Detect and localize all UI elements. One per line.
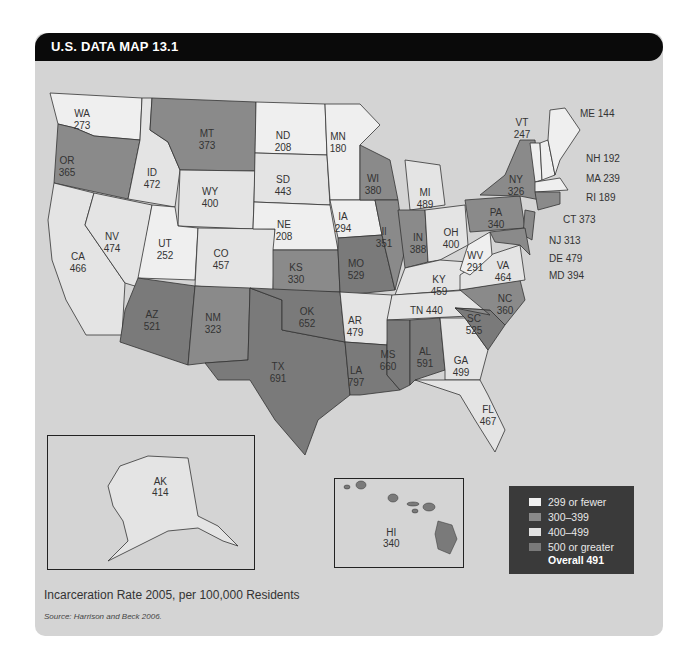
state-label-VA: VA464	[495, 260, 512, 283]
state-CT-RI	[535, 192, 560, 210]
legend-swatch	[529, 498, 541, 506]
state-KS	[273, 250, 340, 292]
state-SD	[254, 153, 330, 205]
state-label-MT: MT373	[199, 128, 216, 151]
state-CO	[195, 228, 275, 292]
legend-item: 300–399	[529, 511, 589, 523]
state-side-label: DE 479	[549, 253, 583, 264]
state-side-label: NH 192	[586, 153, 620, 164]
legend: 299 or fewer 300–399 400–499 500 or grea…	[509, 486, 634, 574]
hawaii-inset: HI 340	[334, 478, 464, 568]
legend-overall: Overall 491	[548, 554, 604, 566]
legend-item: 500 or greater	[529, 541, 614, 553]
map-source: Source: Harrison and Beck 2006.	[44, 612, 162, 621]
state-label-PA: PA340	[488, 207, 505, 230]
map-caption: Incarceration Rate 2005, per 100,000 Res…	[44, 588, 300, 602]
legend-item: 400–499	[529, 526, 589, 538]
alaska-label: AK 414	[152, 476, 169, 498]
legend-swatch	[529, 543, 541, 551]
state-label-SC: SC525	[466, 313, 483, 336]
alaska-shape	[48, 436, 254, 569]
state-label-AZ: AZ521	[144, 309, 161, 332]
state-label-GA: GA499	[453, 355, 470, 378]
legend-swatch	[529, 513, 541, 521]
state-label-KY: KY459	[431, 274, 448, 297]
state-label-OR: OR365	[59, 155, 76, 178]
legend-swatch	[529, 528, 541, 536]
hawaii-shape	[335, 479, 463, 567]
state-ME	[548, 108, 580, 175]
state-label-AR: AR479	[347, 315, 364, 338]
state-label-SD: SD443	[275, 174, 292, 197]
state-side-label: NJ 313	[549, 235, 581, 246]
state-label-WV: WV291	[467, 250, 484, 273]
alaska-inset: AK 414	[47, 435, 255, 570]
state-label-OK: OK652	[299, 306, 316, 329]
state-label-CO: CO457	[213, 248, 230, 271]
state-label-KS: KS330	[288, 262, 305, 285]
state-label-WA: WA273	[74, 108, 91, 131]
state-label-MS: MS660	[380, 349, 397, 372]
state-label-NV: NV474	[104, 231, 121, 254]
state-label-UT: UT252	[157, 238, 174, 261]
state-label-CA: CA466	[70, 251, 87, 274]
state-side-label: MD 394	[549, 270, 584, 281]
state-label-VT: VT247	[514, 117, 531, 140]
state-label-NM: NM323	[205, 312, 222, 335]
legend-item: 299 or fewer	[529, 496, 606, 508]
state-label-WY: WY400	[202, 186, 219, 209]
state-label-TX: TX691	[270, 361, 287, 384]
state-label-OH: OH400	[443, 227, 460, 250]
hawaii-label: HI 340	[383, 527, 400, 549]
state-label-NC: NC360	[497, 293, 514, 316]
state-side-label: ME 144	[580, 108, 615, 119]
state-side-label: MA 239	[586, 173, 620, 184]
state-side-label: CT 373	[563, 214, 596, 225]
state-label-MO: MO529	[348, 258, 365, 281]
state-side-label: TN 440	[410, 305, 443, 316]
state-label-ND: ND208	[275, 130, 292, 153]
state-label-NY: NY326	[508, 174, 525, 197]
state-label-NE: NE208	[276, 219, 293, 242]
state-label-MN: MN180	[330, 131, 347, 154]
state-side-label: RI 189	[586, 192, 616, 203]
